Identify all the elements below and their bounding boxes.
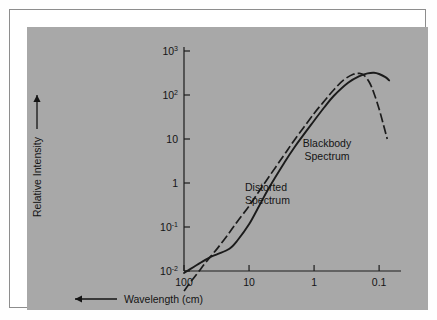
x-tick-label: 10 bbox=[243, 276, 255, 288]
series-blackbody-spectrum bbox=[184, 73, 389, 273]
y-axis-title-group: Relative Intensity bbox=[31, 95, 43, 217]
y-axis-ticks: 10310210110-110-2 bbox=[160, 45, 190, 277]
distorted-label-line1: Distorted bbox=[245, 181, 287, 193]
distorted-annotation: Distorted Spectrum bbox=[245, 181, 290, 206]
y-tick-label: 102 bbox=[162, 89, 178, 101]
x-axis-title: Wavelength (cm) bbox=[124, 293, 203, 305]
figure-outer-border: 10310210110-110-2 1001010.1 Relative Int… bbox=[9, 9, 426, 308]
x-axis-arrow-icon bbox=[75, 295, 117, 302]
blackbody-label-line1: Blackbody bbox=[303, 137, 352, 149]
blackbody-label-line2: Spectrum bbox=[305, 150, 350, 162]
y-tick-label: 103 bbox=[162, 45, 178, 57]
y-axis-arrow-icon bbox=[33, 95, 40, 129]
spectrum-chart: 10310210110-110-2 1001010.1 Relative Int… bbox=[27, 27, 428, 310]
x-tick-label: 0.1 bbox=[372, 276, 387, 288]
y-axis-title: Relative Intensity bbox=[31, 136, 43, 217]
blackbody-annotation: Blackbody Spectrum bbox=[303, 137, 352, 162]
x-axis-title-group: Wavelength (cm) bbox=[75, 293, 203, 305]
x-tick-label: 1 bbox=[311, 276, 317, 288]
y-tick-label: 1 bbox=[172, 177, 178, 189]
y-tick-label: 10 bbox=[166, 133, 178, 145]
y-tick-label: 10-1 bbox=[160, 221, 178, 233]
x-tick-label: 100 bbox=[175, 276, 193, 288]
figure-root: 10310210110-110-2 1001010.1 Relative Int… bbox=[0, 0, 437, 320]
plot-panel: 10310210110-110-2 1001010.1 Relative Int… bbox=[27, 27, 428, 310]
distorted-label-line2: Spectrum bbox=[245, 194, 290, 206]
x-axis-ticks: 1001010.1 bbox=[175, 265, 386, 288]
